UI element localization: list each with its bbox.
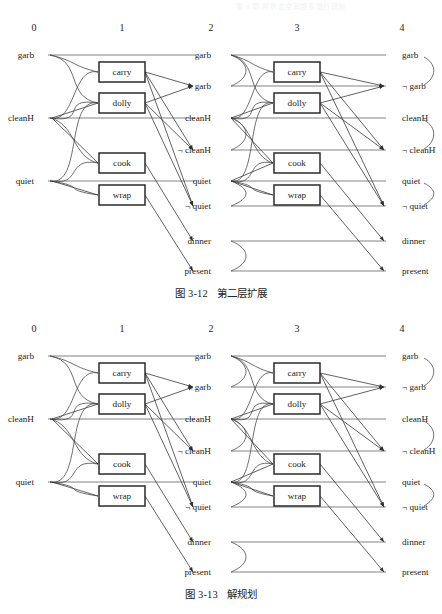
action-l3-label-wrap: wrap bbox=[288, 491, 307, 501]
effect-edge bbox=[320, 103, 384, 150]
figure-3-13-caption: 图 3-13解规划 bbox=[0, 586, 442, 601]
literal-l4-6: dinner bbox=[402, 537, 425, 547]
figure-3-13: 01234garbcleanHquietgarb¬ garbcleanH¬ cl… bbox=[0, 301, 442, 614]
figure-3-12-caption: 图 3-12第二层扩展 bbox=[0, 285, 442, 300]
literal-l4-1: ¬ garb bbox=[402, 81, 426, 91]
column-number-3: 3 bbox=[295, 323, 300, 334]
figure-3-12: 01234garbcleanHquietgarb¬ garbcleanH¬ cl… bbox=[0, 0, 442, 306]
figure-3-12-caption-text: 第二层扩展 bbox=[217, 288, 267, 299]
literal-l4-7: present bbox=[402, 567, 429, 577]
literal-l4-0: garb bbox=[402, 351, 419, 361]
column-number-1: 1 bbox=[120, 323, 125, 334]
literal-l0-1: cleanH bbox=[8, 414, 34, 424]
effect-edge bbox=[320, 404, 384, 451]
effect-edge bbox=[320, 373, 384, 507]
action-l1-label-carry: carry bbox=[113, 67, 132, 77]
action-l1-label-cook: cook bbox=[113, 459, 131, 469]
literal-l4-0: garb bbox=[402, 50, 419, 60]
effect-edge bbox=[145, 103, 193, 150]
effect-edge bbox=[320, 404, 384, 507]
literal-l4-1: ¬ garb bbox=[402, 382, 426, 392]
column-number-0: 0 bbox=[32, 22, 37, 33]
action-l3-label-carry: carry bbox=[288, 67, 307, 77]
action-l3-label-carry: carry bbox=[288, 368, 307, 378]
action-l1-label-wrap: wrap bbox=[113, 190, 132, 200]
literal-l2-2: cleanH bbox=[185, 414, 211, 424]
action-l3-label-wrap: wrap bbox=[288, 190, 307, 200]
literal-l4-6: dinner bbox=[402, 236, 425, 246]
action-l1-label-dolly: dolly bbox=[113, 399, 132, 409]
effect-edge bbox=[320, 387, 384, 404]
column-number-3: 3 bbox=[295, 22, 300, 33]
effect-edge bbox=[320, 103, 384, 206]
literal-l2-2: cleanH bbox=[185, 113, 211, 123]
figure-page: 第 3 章 用状态空间搜索进行规划 01234garbcleanHquietga… bbox=[0, 0, 442, 614]
literal-l4-3: ¬ cleanH bbox=[402, 145, 436, 155]
effect-edge bbox=[145, 86, 193, 103]
effect-edge bbox=[320, 86, 384, 103]
literal-l2-5: ¬ quiet bbox=[185, 502, 211, 512]
literal-l2-0: garb bbox=[195, 351, 212, 361]
literal-l0-2: quiet bbox=[16, 176, 35, 186]
column-number-4: 4 bbox=[400, 22, 405, 33]
action-l1-label-dolly: dolly bbox=[113, 98, 132, 108]
literal-l0-2: quiet bbox=[16, 477, 35, 487]
literal-l4-2: cleanH bbox=[402, 113, 428, 123]
literal-l2-4: quiet bbox=[193, 477, 212, 487]
literal-l0-0: garb bbox=[18, 351, 35, 361]
literal-l2-5: ¬ quiet bbox=[185, 201, 211, 211]
effect-edge bbox=[145, 404, 193, 451]
literal-l2-7: present bbox=[184, 567, 211, 577]
figure-3-13-caption-text: 解规划 bbox=[227, 589, 257, 600]
literal-l4-3: ¬ cleanH bbox=[402, 446, 436, 456]
literal-l4-7: present bbox=[402, 266, 429, 276]
literal-l4-5: ¬ quiet bbox=[402, 201, 428, 211]
literal-l4-4: quiet bbox=[402, 477, 421, 487]
literal-l2-3: ¬ cleanH bbox=[178, 446, 212, 456]
action-l3-label-dolly: dolly bbox=[288, 399, 307, 409]
column-number-2: 2 bbox=[209, 22, 214, 33]
column-number-2: 2 bbox=[209, 323, 214, 334]
action-l1-label-carry: carry bbox=[113, 368, 132, 378]
literal-l2-0: garb bbox=[195, 50, 212, 60]
literal-l4-4: quiet bbox=[402, 176, 421, 186]
literal-l2-3: ¬ cleanH bbox=[178, 145, 212, 155]
column-number-1: 1 bbox=[120, 22, 125, 33]
action-l1-label-cook: cook bbox=[113, 158, 131, 168]
figure-3-13-caption-number: 图 3-13 bbox=[185, 589, 218, 600]
figure-3-12-caption-number: 图 3-12 bbox=[175, 288, 208, 299]
effect-edge bbox=[320, 163, 384, 241]
literal-l4-5: ¬ quiet bbox=[402, 502, 428, 512]
column-number-4: 4 bbox=[400, 323, 405, 334]
action-l3-label-dolly: dolly bbox=[288, 98, 307, 108]
effect-edge bbox=[320, 464, 384, 542]
literal-l4-2: cleanH bbox=[402, 414, 428, 424]
literal-l2-7: present bbox=[184, 266, 211, 276]
column-number-0: 0 bbox=[32, 323, 37, 334]
effect-edge bbox=[320, 72, 384, 206]
action-l1-label-wrap: wrap bbox=[113, 491, 132, 501]
action-l3-label-cook: cook bbox=[288, 158, 306, 168]
literal-l0-1: cleanH bbox=[8, 113, 34, 123]
action-l3-label-cook: cook bbox=[288, 459, 306, 469]
effect-edge bbox=[145, 387, 193, 404]
literal-l0-0: garb bbox=[18, 50, 35, 60]
literal-l2-4: quiet bbox=[193, 176, 212, 186]
